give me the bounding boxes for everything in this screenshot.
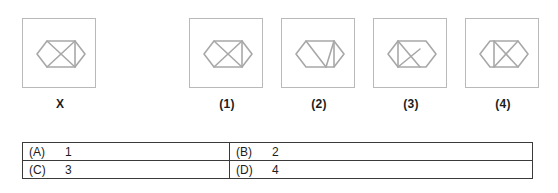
figure-cell-option3[interactable]: (3): [373, 18, 449, 111]
table-row: (A)1 (B)2: [23, 143, 533, 161]
figure-box-option2[interactable]: [281, 18, 355, 88]
answer-option-d[interactable]: (D)4: [230, 161, 533, 179]
figure-label-option4: (4): [465, 97, 541, 111]
figure-cell-option4[interactable]: (4): [465, 18, 541, 111]
figure-shape-option1: [190, 19, 264, 89]
answer-value-d: 4: [272, 163, 279, 177]
figure-cell-option1[interactable]: (1): [189, 18, 265, 111]
figure-cell-stem: X: [22, 18, 98, 111]
figure-label-stem: X: [22, 97, 98, 111]
figure-label-option1: (1): [189, 97, 265, 111]
figure-cell-option2[interactable]: (2): [281, 18, 357, 111]
figure-box-option4[interactable]: [465, 18, 539, 88]
answer-option-c[interactable]: (C)3: [23, 161, 230, 179]
figure-shape-option3: [374, 19, 448, 89]
answer-option-b[interactable]: (B)2: [230, 143, 533, 161]
answer-value-a: 1: [65, 145, 72, 159]
answer-key-d: (D): [236, 163, 262, 177]
answer-value-c: 3: [65, 163, 72, 177]
figure-label-option2: (2): [281, 97, 357, 111]
answer-key-c: (C): [29, 163, 55, 177]
figure-box-option1[interactable]: [189, 18, 263, 88]
answer-value-b: 2: [272, 145, 279, 159]
figure-shape-option4: [466, 19, 540, 89]
figure-shape-option2: [282, 19, 356, 89]
answer-options-table: (A)1 (B)2 (C)3 (D)4: [22, 142, 533, 179]
figure-strip: X (1): [0, 0, 558, 118]
answer-key-b: (B): [236, 145, 262, 159]
table-row: (C)3 (D)4: [23, 161, 533, 179]
figure-shape-stem: [23, 19, 97, 89]
figure-box-stem: [22, 18, 96, 88]
answer-option-a[interactable]: (A)1: [23, 143, 230, 161]
figure-box-option3[interactable]: [373, 18, 447, 88]
figure-label-option3: (3): [373, 97, 449, 111]
answer-key-a: (A): [29, 145, 55, 159]
